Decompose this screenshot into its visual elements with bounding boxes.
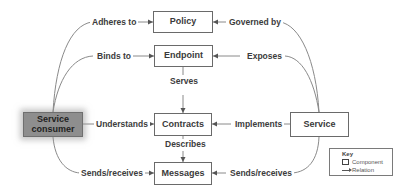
relation-understands: Understands (94, 119, 150, 129)
policy-label: Policy (170, 17, 197, 26)
relation-consumer-sends-receives: Sends/receives (79, 168, 145, 178)
service-consumer-box: Service consumer (23, 112, 83, 137)
relation-binds-to: Binds to (95, 51, 133, 61)
legend-relation-row: Relation (342, 167, 374, 173)
service-label: Service (303, 120, 335, 129)
service-messages-curve (292, 137, 319, 173)
consumer-policy-curve (53, 22, 92, 112)
legend-title: Key (342, 151, 353, 157)
relation-arrow-icon (342, 170, 350, 171)
relation-adheres-to: Adheres to (90, 17, 138, 27)
endpoint-box: Endpoint (154, 45, 213, 67)
legend-key: Key Component Relation (329, 148, 393, 176)
legend-component-row: Component (342, 159, 383, 165)
relation-serves: Serves (168, 76, 200, 86)
component-swatch-icon (342, 159, 349, 165)
relation-exposes: Exposes (245, 51, 284, 61)
contracts-label: Contracts (162, 120, 204, 129)
consumer-endpoint-curve (53, 56, 93, 112)
policy-box: Policy (153, 11, 213, 33)
service-endpoint-curve (285, 56, 319, 112)
service-consumer-label: Service consumer (28, 115, 78, 134)
messages-box: Messages (154, 162, 212, 185)
service-box: Service (290, 112, 349, 137)
consumer-messages-curve (53, 137, 80, 173)
relation-governed-by: Governed by (227, 17, 283, 27)
relation-implements: Implements (233, 119, 284, 129)
legend-relation-label: Relation (352, 167, 374, 173)
messages-label: Messages (161, 169, 204, 178)
endpoint-label: Endpoint (164, 51, 203, 60)
legend-component-label: Component (352, 159, 383, 165)
contracts-box: Contracts (154, 113, 212, 136)
relation-describes: Describes (163, 139, 208, 149)
service-policy-curve (280, 22, 319, 112)
relation-service-sends-receives: Sends/receives (228, 168, 294, 178)
